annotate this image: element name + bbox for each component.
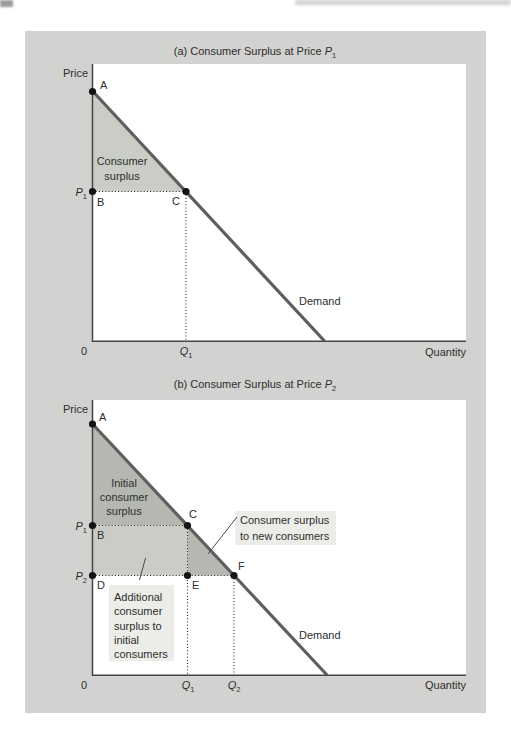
panel-a-point-a-dot <box>89 88 96 95</box>
panel-b-point-b-label: B <box>97 529 104 541</box>
panel-b-point-f-label: F <box>238 560 245 572</box>
panel-b-origin-label: 0 <box>81 679 87 691</box>
panel-a-origin-label: 0 <box>81 345 87 357</box>
panel-a-point-c-label: C <box>172 195 180 207</box>
panel-b-y-axis-label: Price <box>63 403 88 415</box>
panel-a-demand-label: Demand <box>299 295 341 307</box>
panel-b-point-e-dot <box>184 572 191 579</box>
panel-b-point-c-label: C <box>189 508 197 520</box>
panel-a-surplus-label-line1: Consumer <box>97 155 148 167</box>
panel-b-point-a-label: A <box>99 411 107 423</box>
figure-page: (a) Consumer Surplus at Price P1 Price A… <box>0 0 511 744</box>
panel-a-point-c-dot <box>182 188 189 195</box>
panel-b-point-b-price1-dot <box>89 522 96 529</box>
panel-b-additional-line4: initial <box>114 634 139 646</box>
panel-b-additional-line2: consumer <box>114 605 163 617</box>
panel-a-y-axis-label: Price <box>63 67 88 79</box>
panel-b-point-a-dot <box>89 420 96 427</box>
panel-b-demand-label: Demand <box>299 629 341 641</box>
panel-a-x-axis-label: Quantity <box>425 346 466 358</box>
panel-b-point-f-dot <box>230 572 237 579</box>
panel-b-new-consumers-line1: Consumer surplus <box>240 514 330 526</box>
panel-a-plot-area <box>92 64 466 341</box>
panel-a: (a) Consumer Surplus at Price P1 Price A… <box>63 45 467 360</box>
panel-a-point-a-label: A <box>100 79 108 91</box>
panel-b-point-d-label: D <box>97 579 105 591</box>
panel-b: (b) Consumer Surplus at Price P2 Price A… <box>63 378 467 694</box>
panel-b-additional-line1: Additional <box>114 591 162 603</box>
panel-b-initial-surplus-line1: Initial <box>111 477 137 489</box>
panel-a-point-b-price-dot <box>89 188 96 195</box>
panel-b-point-c-dot <box>184 522 191 529</box>
consumer-surplus-figure: (a) Consumer Surplus at Price P1 Price A… <box>0 0 511 744</box>
panel-b-initial-surplus-line2: consumer <box>100 491 149 503</box>
panel-b-additional-line3: surplus to <box>114 620 162 632</box>
panel-b-additional-line5: consumers <box>114 648 168 660</box>
panel-a-point-b-label: B <box>97 196 104 208</box>
panel-a-surplus-label-line2: surplus <box>104 170 140 182</box>
panel-b-new-consumers-line2: to new consumers <box>240 530 330 542</box>
panel-b-point-d-price2-dot <box>89 572 96 579</box>
panel-b-x-axis-label: Quantity <box>425 679 466 691</box>
panel-b-initial-surplus-line3: surplus <box>106 505 142 517</box>
panel-b-additional-surplus-area <box>93 526 188 576</box>
panel-b-point-e-label: E <box>192 579 199 591</box>
